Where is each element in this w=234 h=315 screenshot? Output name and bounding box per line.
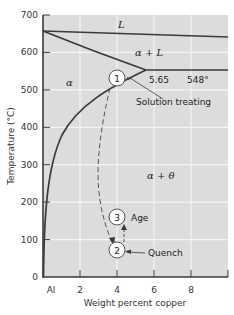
y-tick-label: 600 — [21, 47, 38, 57]
region-alpha-liquid-label: α + L — [135, 47, 163, 58]
y-tick-labels: 0 100 200 300 400 500 600 700 — [21, 10, 38, 282]
step-3-number: 3 — [114, 213, 120, 223]
x-tick-label: 8 — [188, 285, 194, 295]
phase-diagram-svg: 0 100 200 300 400 500 600 700 Al 2 4 6 8… — [0, 0, 234, 315]
eutectic-composition-label: 5.65 — [149, 75, 169, 85]
x-axis-title: Weight percent copper — [84, 298, 187, 308]
y-tick-label: 500 — [21, 85, 38, 95]
step-1-number: 1 — [114, 74, 120, 84]
x-tick-label: 6 — [151, 285, 157, 295]
y-tick-label: 400 — [21, 122, 38, 132]
y-tick-label: 100 — [21, 235, 38, 245]
solution-treating-label: Solution treating — [136, 97, 211, 107]
step-1-marker: 1 — [109, 70, 125, 86]
y-tick-label: 300 — [21, 160, 38, 170]
region-liquid-label: L — [117, 19, 125, 30]
step-2-marker: 2 — [109, 242, 125, 258]
x-tick-label: Al — [47, 285, 56, 295]
age-label: Age — [131, 213, 149, 223]
y-axis-title: Temperature (°C) — [6, 107, 16, 186]
y-tick-label: 0 — [32, 272, 38, 282]
step-2-number: 2 — [114, 246, 120, 256]
region-alpha-label: α — [66, 77, 73, 88]
y-tick-label: 700 — [21, 10, 38, 20]
x-tick-label: 4 — [114, 285, 120, 295]
x-tick-labels: Al 2 4 6 8 — [47, 285, 194, 295]
phase-diagram-figure: 0 100 200 300 400 500 600 700 Al 2 4 6 8… — [0, 0, 234, 315]
x-tick-label: 2 — [77, 285, 83, 295]
step-3-marker: 3 — [109, 209, 125, 225]
region-alpha-theta-label: α + θ — [147, 170, 175, 181]
y-tick-label: 200 — [21, 197, 38, 207]
eutectic-temperature-label: 548° — [187, 75, 209, 85]
quench-label: Quench — [148, 248, 183, 258]
